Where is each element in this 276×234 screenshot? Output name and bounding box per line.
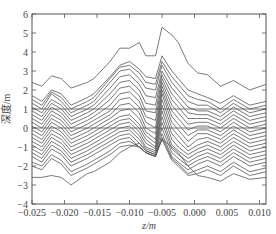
x-axis-ticks: −0.025−0.020−0.015−0.010−0.0050.0000.005… [18,14,271,218]
y-tick-label: 5 [23,28,28,39]
series-line-s1 [32,27,266,90]
x-tick-label: −0.005 [148,207,176,218]
y-tick-label: −1 [17,142,28,153]
series-line-s5 [32,71,266,117]
y-tick-label: 2 [23,85,28,96]
x-tick-label: 0.010 [248,207,271,218]
x-tick-label: −0.010 [115,207,143,218]
y-tick-label: 6 [23,9,28,20]
x-tick-label: 0.005 [216,207,239,218]
y-tick-label: −3 [17,180,28,191]
y-axis-title: 深度/m [0,94,12,125]
y-tick-label: −2 [17,161,28,172]
y-tick-label: 1 [23,104,28,115]
y-tick-label: 4 [23,47,28,58]
series-line-s3 [32,62,266,110]
series-lines [32,27,266,185]
y-tick-label: 0 [23,123,28,134]
x-tick-label: −0.020 [50,207,78,218]
y-tick-label: 3 [23,66,28,77]
line-chart: −0.025−0.020−0.015−0.010−0.0050.0000.005… [0,0,276,234]
x-axis-title: z/m [141,220,156,231]
y-tick-label: −4 [17,199,28,210]
series-line-s4 [32,65,266,113]
x-tick-label: 0.000 [183,207,206,218]
x-tick-label: −0.015 [83,207,111,218]
series-line-s2 [32,56,266,105]
